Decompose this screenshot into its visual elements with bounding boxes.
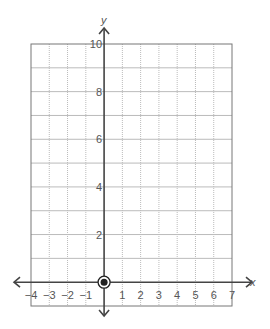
x-tick-label: 4 [174, 289, 180, 301]
x-tick-label: −4 [25, 289, 38, 301]
x-tick-label: −3 [43, 289, 56, 301]
coordinate-plane: −4−3−2−11234567246810 x y [0, 0, 270, 329]
x-tick-label: 7 [229, 289, 235, 301]
x-tick-label: 3 [156, 289, 162, 301]
x-tick-label: 5 [192, 289, 198, 301]
y-axis-label: y [100, 14, 108, 26]
y-tick-label: 4 [96, 181, 102, 193]
points [98, 276, 110, 288]
x-tick-label: 1 [119, 289, 125, 301]
plot-border [31, 44, 232, 306]
x-tick-label: 2 [138, 289, 144, 301]
y-tick-label: 8 [96, 86, 102, 98]
y-tick-label: 6 [96, 133, 102, 145]
y-tick-label: 10 [90, 38, 102, 50]
x-tick-label: −1 [80, 289, 93, 301]
data-point [101, 279, 108, 286]
grid [31, 44, 232, 306]
y-tick-label: 2 [96, 229, 102, 241]
x-tick-label: −2 [61, 289, 74, 301]
tick-labels: −4−3−2−11234567246810 [25, 38, 235, 301]
x-axis-label: x [249, 276, 256, 288]
x-tick-label: 6 [211, 289, 217, 301]
